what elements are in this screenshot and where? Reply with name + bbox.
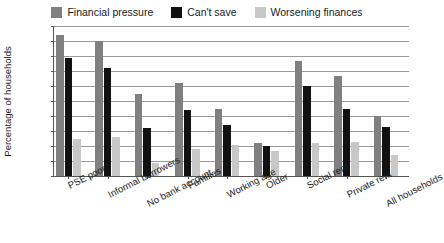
legend-item: Worsening finances — [255, 7, 363, 18]
legend-label: Financial pressure — [67, 7, 153, 18]
bar — [143, 128, 151, 176]
bar — [223, 125, 231, 176]
bar-group — [95, 26, 120, 176]
bar-group — [334, 26, 359, 176]
legend-item: Can't save — [171, 7, 236, 18]
bar — [351, 142, 359, 177]
x-tick-mark — [188, 176, 189, 179]
legend-swatch-icon — [255, 7, 266, 18]
legend-swatch-icon — [171, 7, 182, 18]
chart-legend: Financial pressureCan't saveWorsening fi… — [0, 2, 414, 22]
x-tick-mark — [307, 176, 308, 179]
bar-group — [175, 26, 200, 176]
legend-label: Worsening finances — [271, 7, 363, 18]
bar — [104, 68, 112, 176]
x-tick-mark — [68, 176, 69, 179]
y-axis-title: Percentage of households — [0, 26, 14, 176]
bar — [65, 58, 73, 177]
bar — [343, 109, 351, 177]
bar-group — [374, 26, 399, 176]
bar — [112, 137, 120, 176]
bar-group — [215, 26, 240, 176]
bar — [175, 83, 183, 176]
x-tick-mark — [347, 176, 348, 179]
bar — [263, 146, 271, 176]
y-axis-title-text: Percentage of households — [2, 46, 13, 156]
bar — [312, 143, 320, 176]
bar — [374, 116, 382, 176]
x-tick-mark — [227, 176, 228, 179]
y-tick-mark — [51, 176, 54, 177]
bar — [135, 94, 143, 177]
bar — [382, 127, 390, 177]
legend-item: Financial pressure — [51, 7, 153, 18]
bar — [391, 155, 399, 176]
bar — [192, 149, 200, 176]
bars-layer — [53, 26, 408, 176]
bar — [295, 61, 303, 177]
bar-group — [295, 26, 320, 176]
bar — [303, 86, 311, 176]
bar — [334, 76, 342, 177]
bar-group — [135, 26, 160, 176]
bar — [73, 139, 81, 177]
bar — [184, 110, 192, 176]
legend-label: Can't save — [187, 7, 236, 18]
x-tick-mark — [108, 176, 109, 179]
bar — [56, 35, 64, 176]
x-tick-mark — [266, 176, 267, 179]
bar — [95, 41, 103, 176]
bar — [271, 151, 279, 177]
bar — [215, 109, 223, 177]
x-tick-mark — [386, 176, 387, 179]
legend-swatch-icon — [51, 7, 62, 18]
bar-group — [56, 26, 81, 176]
x-tick-mark — [147, 176, 148, 179]
bar — [152, 163, 160, 177]
bar — [254, 143, 262, 176]
bar — [232, 145, 240, 177]
bar-group — [254, 26, 279, 176]
